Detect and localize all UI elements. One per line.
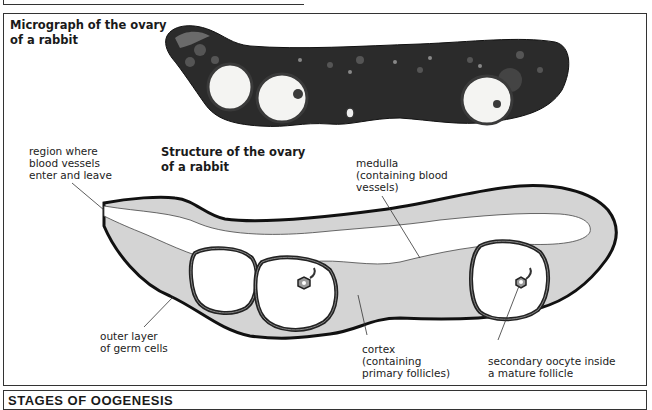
label-line: outer layer [100, 330, 168, 342]
stages-of-oogenesis-panel: STAGES OF OOGENESIS [3, 390, 647, 410]
label-line: of germ cells [100, 342, 168, 354]
label-line: (containing [362, 355, 450, 367]
label-line: (containing blood [356, 169, 448, 181]
micrograph-title-line1: Micrograph of the ovary [10, 18, 167, 33]
diagram-title: Structure of the ovary of a rabbit [161, 145, 305, 175]
micrograph-image [166, 26, 569, 127]
label-line: medulla [356, 157, 448, 169]
label-line: secondary oocyte inside [488, 355, 616, 367]
label-line: vessels) [356, 181, 448, 193]
label-line: blood vessels [29, 157, 112, 169]
label-outer-layer: outer layer of germ cells [100, 330, 168, 354]
diagram-title-line2: of a rabbit [161, 160, 305, 175]
diagram-title-line1: Structure of the ovary [161, 145, 305, 160]
label-secondary-oocyte: secondary oocyte inside a mature follicl… [488, 355, 616, 379]
micrograph-title: Micrograph of the ovary of a rabbit [10, 18, 167, 48]
label-line: cortex [362, 343, 450, 355]
label-cortex: cortex (containing primary follicles) [362, 343, 450, 379]
label-line: primary follicles) [362, 367, 450, 379]
label-line: region where [29, 145, 112, 157]
stages-title: STAGES OF OOGENESIS [8, 393, 173, 408]
ovary-structure-diagram [104, 186, 616, 339]
label-line: a mature follicle [488, 367, 616, 379]
label-medulla: medulla (containing blood vessels) [356, 157, 448, 193]
micrograph-title-line2: of a rabbit [10, 33, 167, 48]
label-region-blood-vessels: region where blood vessels enter and lea… [29, 145, 112, 181]
label-line: enter and leave [29, 169, 112, 181]
